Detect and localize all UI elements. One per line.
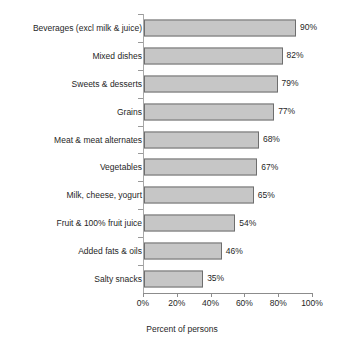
x-axis-tick — [177, 293, 178, 297]
bar-container: 67% — [144, 159, 364, 176]
bar — [144, 187, 254, 204]
bar-row: Added fats & oils46% — [0, 237, 364, 265]
x-axis-tick-label: 60% — [236, 299, 253, 308]
category-label: Meat & meat alternates — [54, 135, 142, 144]
y-axis-tick — [138, 42, 143, 43]
y-axis-tick — [138, 237, 143, 238]
bar-value-label: 79% — [278, 79, 299, 88]
bar-container: 68% — [144, 131, 364, 148]
x-axis-ticks: 0%20%40%60%80%100% — [0, 293, 364, 294]
bar-row: Grains77% — [0, 98, 364, 126]
category-label: Added fats & oils — [78, 247, 142, 256]
x-axis-title: Percent of persons — [0, 325, 364, 334]
x-axis-tick — [312, 293, 313, 297]
bar-container: 90% — [144, 19, 364, 36]
bar-row: Beverages (excl milk & juice)90% — [0, 14, 364, 42]
bar — [144, 243, 222, 260]
bar-row: Fruit & 100% fruit juice54% — [0, 209, 364, 237]
bar — [144, 103, 274, 120]
bar-value-label: 54% — [235, 219, 256, 228]
bar-container: 54% — [144, 215, 364, 232]
category-label: Fruit & 100% fruit juice — [56, 219, 142, 228]
bar-value-label: 68% — [259, 135, 280, 144]
category-label: Mixed dishes — [92, 52, 142, 61]
x-axis-tick — [211, 293, 212, 297]
bar-container: 79% — [144, 75, 364, 92]
bar-chart: Beverages (excl milk & juice)90%Mixed di… — [0, 0, 364, 350]
bar-value-label: 65% — [254, 191, 275, 200]
y-axis-tick — [138, 209, 143, 210]
bar-value-label: 77% — [274, 107, 295, 116]
bar-container: 46% — [144, 243, 364, 260]
x-axis-tick-label: 80% — [270, 299, 287, 308]
bar — [144, 47, 283, 64]
bar-value-label: 82% — [283, 52, 304, 61]
y-axis-tick — [138, 181, 143, 182]
y-axis-tick — [138, 98, 143, 99]
x-axis-tick — [244, 293, 245, 297]
bar-row: Milk, cheese, yogurt65% — [0, 181, 364, 209]
category-label: Beverages (excl milk & juice) — [33, 24, 142, 33]
category-label: Vegetables — [100, 163, 142, 172]
category-label: Sweets & desserts — [72, 79, 142, 88]
category-label: Grains — [117, 107, 142, 116]
bar — [144, 75, 278, 92]
category-label: Salty snacks — [94, 275, 142, 284]
bar-row: Salty snacks35% — [0, 265, 364, 293]
bar-row: Vegetables67% — [0, 153, 364, 181]
y-axis-tick — [138, 70, 143, 71]
bar-value-label: 67% — [257, 163, 278, 172]
bar-container: 65% — [144, 187, 364, 204]
bar-container: 35% — [144, 270, 364, 287]
bar-row: Mixed dishes82% — [0, 42, 364, 70]
y-axis-tick — [138, 126, 143, 127]
bar-row: Meat & meat alternates68% — [0, 126, 364, 154]
bar-container: 82% — [144, 47, 364, 64]
x-axis-tick-label: 100% — [301, 299, 323, 308]
bar — [144, 270, 203, 287]
y-axis-tick — [138, 153, 143, 154]
x-axis-tick-label: 20% — [168, 299, 185, 308]
category-label: Milk, cheese, yogurt — [66, 191, 142, 200]
bar-value-label: 46% — [222, 247, 243, 256]
x-axis-tick — [278, 293, 279, 297]
bar-value-label: 90% — [296, 24, 317, 33]
bar — [144, 159, 257, 176]
bar-rows: Beverages (excl milk & juice)90%Mixed di… — [0, 14, 364, 293]
y-axis-tick — [138, 265, 143, 266]
x-axis-tick-label: 0% — [137, 299, 149, 308]
bar — [144, 19, 296, 36]
y-axis-tick — [138, 14, 143, 15]
plot-area: Beverages (excl milk & juice)90%Mixed di… — [0, 0, 364, 350]
bar-value-label: 35% — [203, 275, 224, 284]
bar-container: 77% — [144, 103, 364, 120]
x-axis-tick — [143, 293, 144, 297]
x-axis-tick-label: 40% — [202, 299, 219, 308]
bar — [144, 131, 259, 148]
bar-row: Sweets & desserts79% — [0, 70, 364, 98]
bar — [144, 215, 235, 232]
